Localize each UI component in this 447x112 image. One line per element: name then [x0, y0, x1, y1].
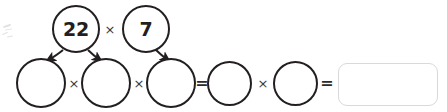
- blank-circle-3[interactable]: [146, 58, 196, 108]
- blank-circle-5[interactable]: [273, 61, 318, 106]
- factor-circle-7-value: 7: [140, 20, 153, 39]
- worksheet-canvas: 22 × 7 × × = × =: [0, 0, 447, 112]
- blank-circle-2[interactable]: [81, 58, 131, 108]
- operator-bottom-times-1: ×: [67, 77, 81, 90]
- operator-bottom-equals-2: =: [320, 75, 334, 91]
- answer-input-box[interactable]: [338, 63, 438, 106]
- operator-top-times: ×: [103, 23, 117, 36]
- factor-circle-7[interactable]: 7: [122, 5, 170, 53]
- scan-artifact-smudge: [2, 24, 16, 40]
- blank-circle-1[interactable]: [16, 58, 66, 108]
- operator-bottom-times-3: ×: [256, 77, 270, 90]
- factor-circle-22-value: 22: [63, 20, 89, 39]
- operator-bottom-times-2: ×: [132, 77, 146, 90]
- factor-circle-22[interactable]: 22: [52, 5, 100, 53]
- blank-circle-4[interactable]: [207, 61, 252, 106]
